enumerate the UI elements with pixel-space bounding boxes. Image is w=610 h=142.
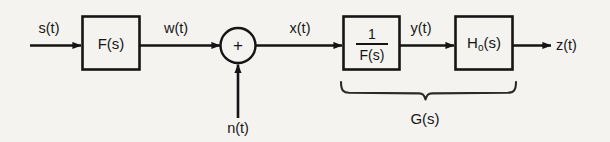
label-signal-input: s(t) <box>39 21 60 36</box>
block-diagram-canvas: s(t) F(s) w(t) + n(t) x(t) 1 F(s) y(t) H… <box>0 0 610 142</box>
fraction-bar <box>356 43 388 45</box>
inverse-numerator: 1 <box>356 27 388 42</box>
label-brace-gs: G(s) <box>410 111 439 126</box>
label-signal-output: z(t) <box>556 38 577 53</box>
label-summing-plus: + <box>233 37 243 54</box>
optimum-filter-main: H <box>467 34 478 51</box>
label-block-inverse-filter: 1 F(s) <box>356 27 388 62</box>
label-block-filter: F(s) <box>98 36 125 51</box>
label-signal-summed: x(t) <box>290 21 311 36</box>
label-signal-noise: n(t) <box>227 121 249 136</box>
inverse-denominator: F(s) <box>356 47 388 62</box>
underbrace-gs <box>341 82 516 100</box>
label-block-optimum-filter: Ho(s) <box>467 35 501 53</box>
optimum-filter-argument: (s) <box>483 34 501 51</box>
label-signal-filtered: w(t) <box>164 21 188 36</box>
label-signal-inverse-out: y(t) <box>411 21 432 36</box>
